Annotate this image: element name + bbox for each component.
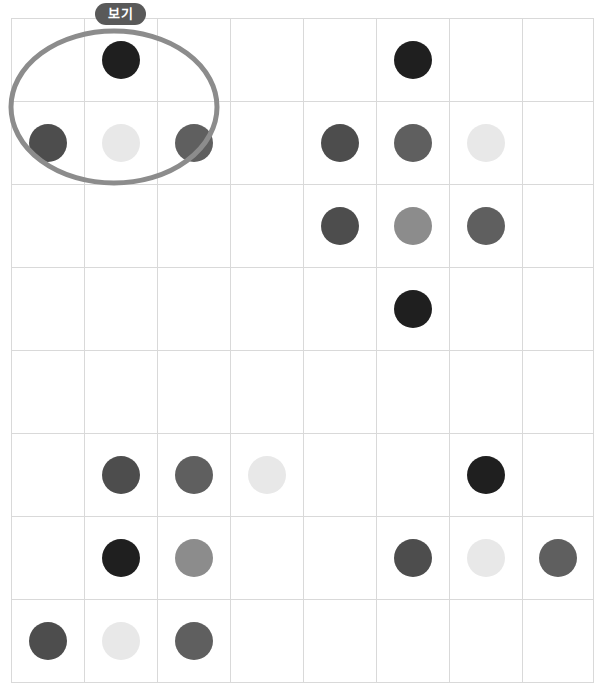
grid-cell-r1-c6[interactable] <box>377 19 450 102</box>
dot-dark_gray <box>394 539 432 577</box>
dot-medium_gray <box>175 539 213 577</box>
grid-cell-r6-c3[interactable] <box>158 434 231 517</box>
grid-cell-r4-c1[interactable] <box>12 268 85 351</box>
grid-cell-r4-c4[interactable] <box>231 268 304 351</box>
dot-medium_dark_gray <box>467 207 505 245</box>
example-badge: 보기 <box>95 3 146 25</box>
dot-light_gray <box>102 622 140 660</box>
dot-medium_dark_gray <box>175 456 213 494</box>
grid-row <box>12 185 594 268</box>
grid-row <box>12 102 594 185</box>
grid-cell-r3-c7[interactable] <box>450 185 523 268</box>
grid-cell-r1-c8[interactable] <box>523 19 594 102</box>
grid-row <box>12 434 594 517</box>
grid-cell-r3-c2[interactable] <box>85 185 158 268</box>
grid-cell-r7-c6[interactable] <box>377 517 450 600</box>
grid-cell-r6-c6[interactable] <box>377 434 450 517</box>
grid-cell-r4-c3[interactable] <box>158 268 231 351</box>
grid-cell-r3-c8[interactable] <box>523 185 594 268</box>
dot-medium_dark_gray <box>175 124 213 162</box>
grid-cell-r7-c3[interactable] <box>158 517 231 600</box>
grid-cell-r1-c5[interactable] <box>304 19 377 102</box>
grid-cell-r8-c6[interactable] <box>377 600 450 683</box>
dot-light_gray <box>248 456 286 494</box>
grid-cell-r5-c3[interactable] <box>158 351 231 434</box>
grid-cell-r5-c5[interactable] <box>304 351 377 434</box>
grid-cell-r6-c8[interactable] <box>523 434 594 517</box>
grid-cell-r4-c8[interactable] <box>523 268 594 351</box>
grid-cell-r1-c7[interactable] <box>450 19 523 102</box>
grid-cell-r7-c1[interactable] <box>12 517 85 600</box>
dot-dark_gray <box>321 207 359 245</box>
grid-cell-r2-c3[interactable] <box>158 102 231 185</box>
grid-cell-r6-c2[interactable] <box>85 434 158 517</box>
grid-cell-r6-c4[interactable] <box>231 434 304 517</box>
grid-cell-r8-c1[interactable] <box>12 600 85 683</box>
grid-cell-r5-c2[interactable] <box>85 351 158 434</box>
dot-black <box>394 290 432 328</box>
grid-cell-r8-c5[interactable] <box>304 600 377 683</box>
grid-cell-r8-c2[interactable] <box>85 600 158 683</box>
dot-light_gray <box>467 539 505 577</box>
grid-row <box>12 600 594 683</box>
grid-cell-r4-c2[interactable] <box>85 268 158 351</box>
dot-medium_dark_gray <box>539 539 577 577</box>
grid-cell-r2-c6[interactable] <box>377 102 450 185</box>
dot-black <box>102 41 140 79</box>
dot-dark_gray <box>321 124 359 162</box>
dot-light_gray <box>467 124 505 162</box>
dot-dark_gray <box>102 456 140 494</box>
dot-light_gray <box>102 124 140 162</box>
grid-cell-r2-c5[interactable] <box>304 102 377 185</box>
grid-cell-r4-c6[interactable] <box>377 268 450 351</box>
dot-dark_gray <box>29 622 67 660</box>
grid-cell-r1-c4[interactable] <box>231 19 304 102</box>
grid-cell-r7-c2[interactable] <box>85 517 158 600</box>
grid-cell-r7-c4[interactable] <box>231 517 304 600</box>
dot-medium_dark_gray <box>175 622 213 660</box>
grid-cell-r8-c4[interactable] <box>231 600 304 683</box>
grid-cell-r8-c7[interactable] <box>450 600 523 683</box>
grid-cell-r2-c2[interactable] <box>85 102 158 185</box>
grid-cell-r7-c7[interactable] <box>450 517 523 600</box>
dot-medium_dark_gray <box>394 124 432 162</box>
grid-cell-r6-c5[interactable] <box>304 434 377 517</box>
grid-cell-r8-c3[interactable] <box>158 600 231 683</box>
grid-cell-r2-c1[interactable] <box>12 102 85 185</box>
grid-cell-r3-c4[interactable] <box>231 185 304 268</box>
dot-black <box>102 539 140 577</box>
dot-grid <box>11 18 594 683</box>
grid-cell-r6-c1[interactable] <box>12 434 85 517</box>
grid-cell-r3-c5[interactable] <box>304 185 377 268</box>
grid-cell-r1-c3[interactable] <box>158 19 231 102</box>
dot-black <box>394 41 432 79</box>
grid-row <box>12 517 594 600</box>
grid-row <box>12 19 594 102</box>
grid-row <box>12 351 594 434</box>
grid-cell-r5-c4[interactable] <box>231 351 304 434</box>
dot-medium_gray <box>394 207 432 245</box>
grid-cell-r4-c7[interactable] <box>450 268 523 351</box>
dot-dark_gray <box>29 124 67 162</box>
grid-cell-r2-c4[interactable] <box>231 102 304 185</box>
grid-cell-r8-c8[interactable] <box>523 600 594 683</box>
grid-cell-r3-c1[interactable] <box>12 185 85 268</box>
grid-cell-r2-c7[interactable] <box>450 102 523 185</box>
grid-row <box>12 268 594 351</box>
grid-cell-r3-c3[interactable] <box>158 185 231 268</box>
grid-cell-r1-c1[interactable] <box>12 19 85 102</box>
grid-cell-r7-c5[interactable] <box>304 517 377 600</box>
grid-cell-r4-c5[interactable] <box>304 268 377 351</box>
grid-cell-r7-c8[interactable] <box>523 517 594 600</box>
grid-cell-r2-c8[interactable] <box>523 102 594 185</box>
grid-cell-r5-c7[interactable] <box>450 351 523 434</box>
grid-cell-r6-c7[interactable] <box>450 434 523 517</box>
grid-cell-r3-c6[interactable] <box>377 185 450 268</box>
grid-cell-r5-c6[interactable] <box>377 351 450 434</box>
dot-black <box>467 456 505 494</box>
dot-grid-body <box>12 19 594 683</box>
grid-cell-r5-c1[interactable] <box>12 351 85 434</box>
grid-cell-r1-c2[interactable] <box>85 19 158 102</box>
grid-cell-r5-c8[interactable] <box>523 351 594 434</box>
